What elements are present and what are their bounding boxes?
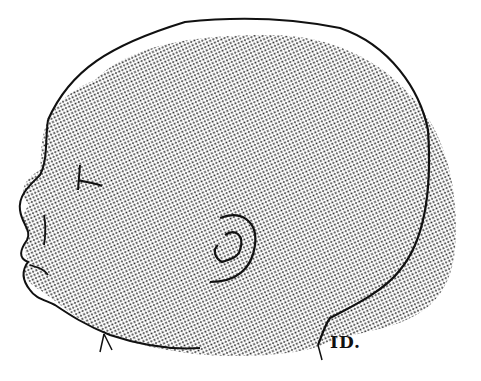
neck-crease <box>100 334 112 352</box>
baby-head-illustration <box>0 0 481 381</box>
head-shading <box>23 35 456 356</box>
neck-line <box>318 345 322 360</box>
artist-signature: ID. <box>330 332 361 352</box>
